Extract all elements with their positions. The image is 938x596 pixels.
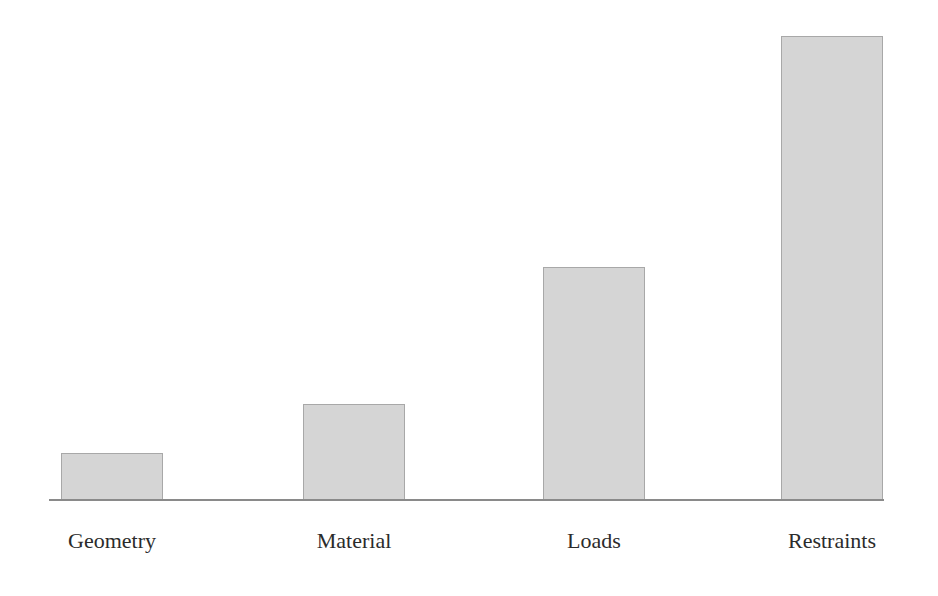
- bar-loads: [543, 267, 645, 500]
- category-label-restraints: Restraints: [732, 528, 932, 554]
- bar-geometry: [61, 453, 163, 500]
- bar-material: [303, 404, 405, 500]
- category-axis-line: [49, 499, 884, 501]
- bar-restraints: [781, 36, 883, 500]
- category-label-loads: Loads: [494, 528, 694, 554]
- bar-chart-figure: Geometry Material Loads Restraints: [0, 0, 938, 596]
- plot-area: [0, 0, 938, 596]
- category-label-geometry: Geometry: [12, 528, 212, 554]
- category-label-material: Material: [254, 528, 454, 554]
